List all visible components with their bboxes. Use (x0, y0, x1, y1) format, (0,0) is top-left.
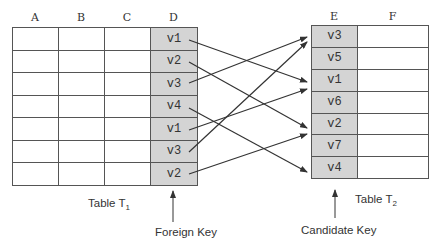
arrow-v3-row5 (189, 42, 307, 152)
table-t1-label-text: Table T (88, 197, 126, 209)
table-t2-label-sub: 2 (393, 199, 397, 208)
table-t2-label: Table T2 (355, 193, 397, 208)
mapping-arrows (0, 0, 437, 251)
table-t2-label-text: Table T (355, 193, 393, 205)
table-t1-label-sub: 1 (126, 203, 130, 212)
foreign-key-label: Foreign Key (155, 226, 217, 238)
candidate-key-label: Candidate Key (301, 224, 376, 236)
table-t1-label: Table T1 (88, 197, 130, 212)
